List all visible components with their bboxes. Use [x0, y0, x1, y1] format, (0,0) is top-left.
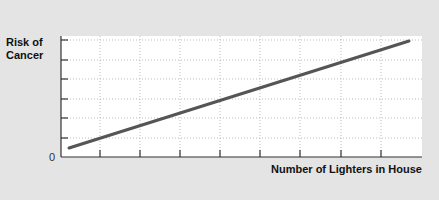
x-axis-label: Number of Lighters in House [271, 163, 422, 175]
trend-line [69, 41, 409, 148]
y-axis-label: Risk of Cancer [6, 36, 58, 62]
origin-label: 0 [49, 151, 55, 163]
